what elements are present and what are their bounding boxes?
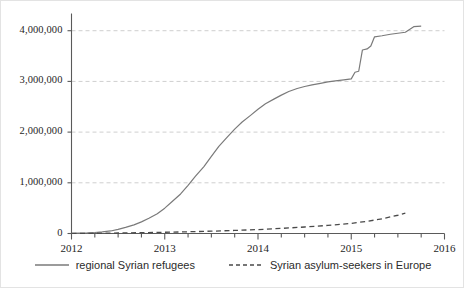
data-series <box>72 26 422 233</box>
dashed-line-icon <box>229 260 263 270</box>
x-tick-label: 2016 <box>415 242 464 254</box>
x-tick-label: 2015 <box>321 242 381 254</box>
legend-label: regional Syrian refugees <box>76 259 195 271</box>
chart-figure: 01,000,0002,000,0003,000,0004,000,000 20… <box>0 0 464 288</box>
y-tick-label: 0 <box>57 227 62 238</box>
y-tick-label: 4,000,000 <box>20 24 63 35</box>
x-tick-label: 2012 <box>42 242 102 254</box>
x-tick-label: 2013 <box>135 242 195 254</box>
legend-label: Syrian asylum-seekers in Europe <box>270 259 431 271</box>
axis-lines <box>72 14 445 234</box>
series-line-2 <box>72 213 406 233</box>
x-tick-label: 2014 <box>228 242 288 254</box>
y-tick-label: 3,000,000 <box>20 74 63 85</box>
y-tick-label: 2,000,000 <box>20 125 63 136</box>
legend-entry[interactable]: regional Syrian refugees <box>35 259 195 271</box>
axis-ticks <box>68 31 445 240</box>
series-line-1 <box>72 26 422 233</box>
solid-line-icon <box>35 260 69 270</box>
legend-entry[interactable]: Syrian asylum-seekers in Europe <box>229 259 431 271</box>
chart-legend: regional Syrian refugeesSyrian asylum-se… <box>1 259 464 271</box>
gridlines <box>72 31 445 183</box>
y-tick-label: 1,000,000 <box>20 176 63 187</box>
